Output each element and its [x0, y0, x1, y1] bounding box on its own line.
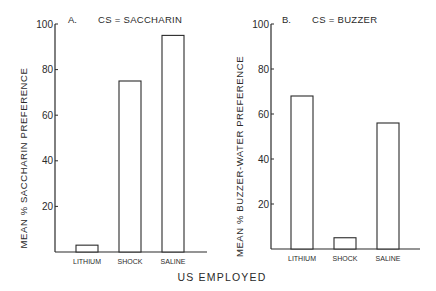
bar-chart-figure: 20406080100LITHIUMSHOCKSALINEA.CS = SACC… [0, 0, 436, 291]
x-category-label: LITHIUM [73, 258, 101, 265]
panel-title: CS = SACCHARIN [98, 14, 182, 25]
panel-label: B. [282, 14, 291, 25]
bar-saline [377, 123, 399, 249]
panel-a-saccharin: 20406080100LITHIUMSHOCKSALINEA.CS = SACC… [18, 14, 207, 265]
y-tick-label: 100 [252, 19, 269, 30]
panel-b-buzzer: 20406080100LITHIUMSHOCKSALINEB.CS = BUZZ… [234, 14, 420, 262]
x-category-label: SALINE [376, 255, 401, 262]
y-axis-label: MEAN % BUZZER-WATER PREFERENCE [234, 56, 245, 257]
x-category-label: SHOCK [333, 255, 358, 262]
y-tick-label: 80 [42, 64, 54, 75]
y-tick-label: 20 [42, 201, 54, 212]
panel-title: CS = BUZZER [312, 14, 377, 25]
bar-lithium [291, 96, 313, 249]
x-axis-title: US EMPLOYED [177, 271, 266, 283]
x-category-label: SALINE [161, 258, 186, 265]
y-tick-label: 20 [258, 199, 270, 210]
y-tick-label: 100 [36, 19, 53, 30]
y-tick-label: 80 [258, 64, 270, 75]
bar-saline [162, 35, 184, 252]
y-tick-label: 60 [258, 109, 270, 120]
y-tick-label: 40 [258, 154, 270, 165]
panel-label: A. [68, 14, 77, 25]
bar-shock [119, 81, 141, 252]
x-category-label: LITHIUM [288, 255, 316, 262]
y-tick-label: 60 [42, 110, 54, 121]
y-tick-label: 40 [42, 155, 54, 166]
y-axis-label: MEAN % SACCHARIN PREFERENCE [18, 68, 29, 249]
bar-lithium [76, 245, 98, 252]
x-category-label: SHOCK [118, 258, 143, 265]
bar-shock [334, 238, 356, 249]
